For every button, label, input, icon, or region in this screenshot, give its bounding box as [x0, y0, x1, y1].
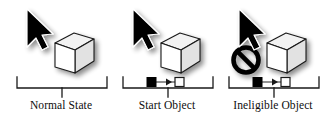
- panel-start-object-stage: [112, 0, 222, 84]
- cursor-icon: [133, 9, 159, 50]
- box-object: [161, 33, 200, 73]
- cursor-icon: [239, 9, 265, 50]
- connector-icon: [147, 78, 184, 87]
- panel-ineligible-object-stage: [218, 0, 328, 84]
- box-object: [55, 33, 94, 73]
- panel-normal-state-stage: [6, 0, 116, 84]
- bracket: [17, 77, 107, 97]
- panel-caption: Start Object: [112, 99, 222, 112]
- prohibition-icon: [234, 48, 259, 73]
- cursor-icon: [27, 9, 53, 50]
- cursor-state-figure: Normal State: [0, 0, 332, 124]
- panel-caption: Ineligible Object: [218, 99, 328, 112]
- panel-caption: Normal State: [6, 99, 116, 112]
- box-object: [267, 33, 306, 73]
- connector-icon: [253, 78, 290, 87]
